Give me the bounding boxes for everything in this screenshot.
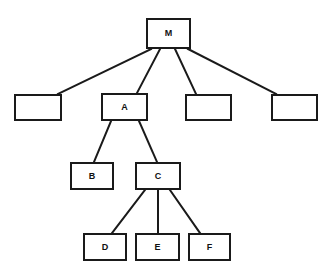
tree-edge-a-b [94, 121, 111, 162]
tree-node-n1[interactable] [14, 94, 62, 121]
tree-edge-m-n4 [188, 49, 276, 94]
tree-node-label: M [165, 29, 173, 38]
tree-node-label: A [121, 103, 128, 112]
tree-node-label: E [154, 243, 160, 252]
tree-node-label: D [102, 243, 109, 252]
tree-node-c[interactable]: C [135, 162, 181, 190]
tree-node-label: C [155, 172, 162, 181]
tree-node-n3[interactable] [185, 94, 232, 121]
tree-diagram: MABCDEF [0, 0, 332, 275]
tree-edge-c-d [112, 190, 145, 233]
tree-edge-m-n3 [175, 49, 196, 94]
tree-node-e[interactable]: E [135, 233, 180, 261]
tree-node-b[interactable]: B [70, 162, 114, 190]
tree-node-n4[interactable] [271, 94, 318, 121]
tree-node-a[interactable]: A [101, 93, 148, 121]
tree-node-f[interactable]: F [188, 233, 231, 261]
tree-node-m[interactable]: M [146, 18, 191, 49]
tree-edge-m-n1 [58, 49, 151, 94]
tree-node-label: B [89, 172, 96, 181]
tree-node-d[interactable]: D [83, 233, 127, 261]
tree-edge-c-f [170, 190, 200, 233]
tree-node-label: F [207, 243, 213, 252]
tree-edge-a-c [139, 121, 157, 162]
tree-edge-m-a [137, 49, 160, 93]
